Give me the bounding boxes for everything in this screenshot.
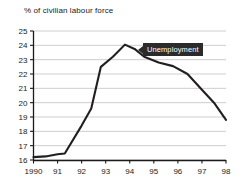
x-tick-label: 91 [53, 167, 62, 176]
chart-figure: % of civilian labour force 2524232221201… [0, 0, 246, 190]
x-tick-label: 96 [173, 167, 182, 176]
y-tick-label: 17 [19, 142, 28, 151]
x-tick-label: 97 [197, 167, 206, 176]
y-tick-label: 24 [19, 41, 28, 50]
y-tick-label: 16 [19, 156, 28, 165]
y-tick-label: 22 [19, 70, 28, 79]
x-tick-label: 92 [77, 167, 86, 176]
x-tick-label: 95 [149, 167, 158, 176]
y-tick-label: 25 [19, 27, 28, 36]
y-tick-label: 18 [19, 127, 28, 136]
x-tick-label: 98 [222, 167, 231, 176]
chart-plot-area: 25242322212019181716 1990919293949596979… [0, 0, 246, 190]
y-tick-label: 21 [19, 84, 28, 93]
y-axis-tick-labels: 25242322212019181716 [19, 27, 28, 165]
unemployment-callout-label: Unemployment [143, 43, 203, 56]
x-axis-tick-labels: 19909192939495969798 [25, 167, 231, 176]
x-tick-label: 93 [101, 167, 110, 176]
series-line-unemployment [34, 45, 227, 158]
y-tick-label: 20 [19, 99, 28, 108]
y-tick-label: 23 [19, 56, 28, 65]
x-tick-label: 94 [125, 167, 134, 176]
y-tick-label: 19 [19, 113, 28, 122]
x-tick-label: 1990 [25, 167, 43, 176]
